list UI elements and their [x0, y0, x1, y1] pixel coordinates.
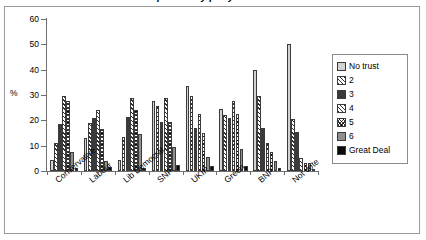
x-axis-tick	[183, 171, 184, 175]
x-axis-category-label: UKIP	[189, 164, 211, 184]
y-axis-tick	[41, 95, 46, 96]
legend-swatch-icon	[337, 118, 346, 127]
legend-label: 3	[349, 90, 354, 99]
y-axis-tick	[41, 70, 46, 71]
legend-swatch-icon	[337, 132, 346, 141]
legend-label: No trust	[349, 62, 379, 71]
x-axis-tick	[47, 171, 48, 175]
x-axis-category-label: Green	[222, 162, 247, 185]
x-axis-tick	[250, 171, 251, 175]
legend-item: No trust	[337, 59, 404, 73]
legend-label: 4	[349, 104, 354, 113]
legend-swatch-icon	[337, 90, 346, 99]
legend-item: 4	[337, 101, 404, 115]
x-axis-tick	[115, 171, 116, 175]
legend-item: 3	[337, 87, 404, 101]
y-axis-tick	[41, 44, 46, 45]
y-axis-tick	[41, 146, 46, 147]
legend-swatch-icon	[337, 62, 346, 71]
legend-item: 5	[337, 115, 404, 129]
x-axis-tick	[81, 171, 82, 175]
chart-figure: Trust in politics by party % 01020304050…	[0, 0, 426, 240]
legend-label: 2	[349, 76, 354, 85]
x-axis-category-label: Labour	[87, 160, 114, 185]
x-axis-tick	[284, 171, 285, 175]
y-axis-tick	[41, 120, 46, 121]
x-axis-category-label: Not vote	[290, 157, 321, 185]
x-axis-tick	[318, 171, 319, 175]
y-axis-tick	[41, 171, 46, 172]
y-axis-tick	[41, 19, 46, 20]
legend-label: Great Deal	[349, 146, 390, 155]
legend-label: 6	[349, 132, 354, 141]
legend-swatch-icon	[337, 76, 346, 85]
x-axis-category-label: SNP	[155, 166, 175, 185]
legend-swatch-icon	[337, 146, 346, 155]
chart-legend: No trust23456Great Deal	[332, 54, 408, 164]
legend-item: 6	[337, 129, 404, 143]
legend-swatch-icon	[337, 104, 346, 113]
x-axis-tick	[149, 171, 150, 175]
x-axis-tick	[216, 171, 217, 175]
x-axis-category-label: BNP	[256, 166, 276, 185]
legend-item: 2	[337, 73, 404, 87]
legend-label: 5	[349, 118, 354, 127]
legend-item: Great Deal	[337, 143, 404, 157]
